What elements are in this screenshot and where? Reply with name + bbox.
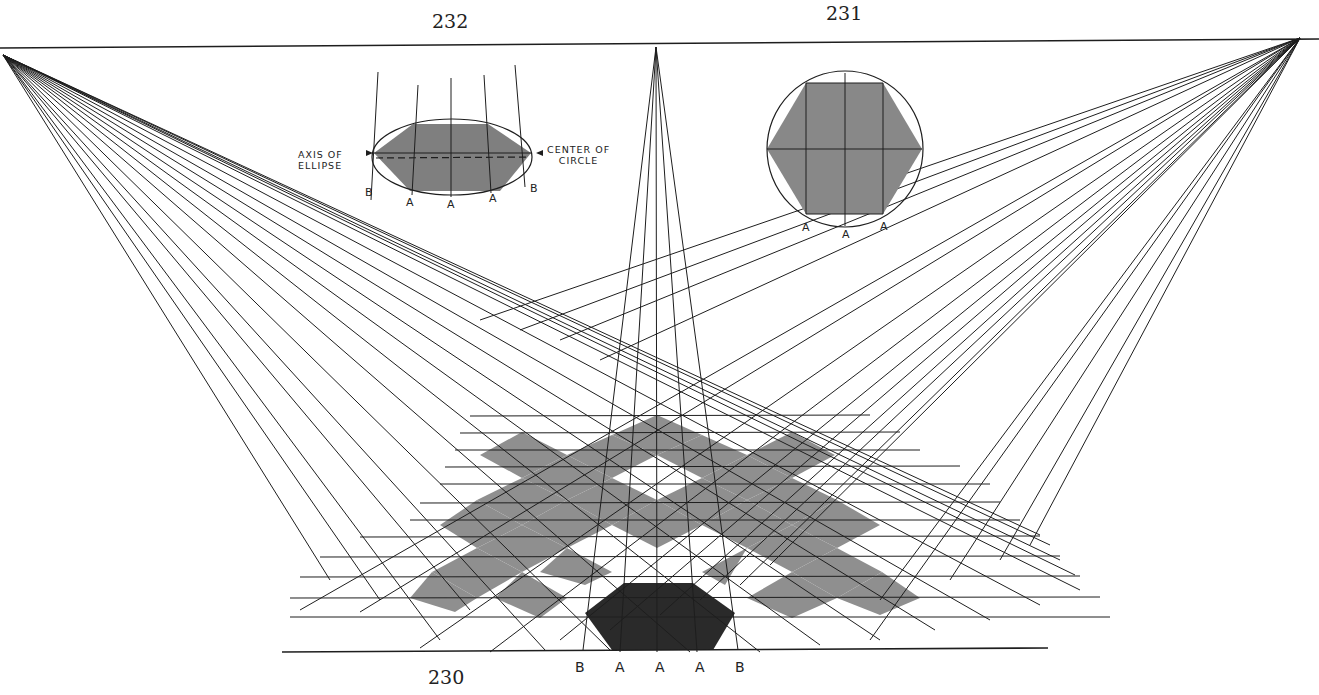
horizon-line [0,39,1319,48]
ellipse-vertical-line [371,72,378,200]
line-to-right-vanishing-point [870,38,1300,640]
figure-number-232: 232 [432,10,468,32]
perspective-drawing: BAAABBAAABAAA [0,0,1319,695]
line-to-left-vanishing-point [3,55,610,650]
grid-horizontal-line [470,415,870,416]
line-to-center-vanishing-point [656,47,738,650]
figure-number-231: 231 [826,2,862,24]
callout-center-of-circle: CENTER OF CIRCLE [547,144,610,166]
line-to-center-vanishing-point [620,47,656,652]
callout-center-line2: CIRCLE [547,155,610,166]
callout-axis-line2: ELLIPSE [298,160,343,171]
line-to-left-vanishing-point [3,55,380,600]
line-to-right-vanishing-point [600,38,1300,360]
circle-point-label: A [880,220,888,233]
ground-label: A [615,659,625,675]
circle-point-label: A [802,221,810,234]
callout-axis-line1: AXIS OF [298,149,343,160]
perspective-illustration: BAAABBAAABAAA 232 231 230 AXIS OF ELLIPS… [0,0,1319,695]
callout-center-line1: CENTER OF [547,144,610,155]
center-arrow-icon [536,150,543,156]
ellipse-point-label: B [365,186,373,199]
line-to-right-vanishing-point [560,38,1300,640]
line-to-right-vanishing-point [1000,38,1300,560]
ground-label: A [655,659,665,675]
circle-point-label: A [842,228,850,241]
ellipse-point-label: A [447,198,455,211]
figure-number-230: 230 [428,666,464,688]
line-to-right-vanishing-point [880,38,1300,600]
ellipse-point-label: A [489,192,497,205]
line-to-center-vanishing-point [656,47,697,652]
ellipse-hexagon [374,124,531,191]
line-to-right-vanishing-point [520,38,1300,330]
line-to-left-vanishing-point [3,55,330,580]
callout-axis-of-ellipse: AXIS OF ELLIPSE [298,149,343,171]
ground-label: A [695,659,705,675]
line-to-right-vanishing-point [610,38,1300,630]
line-to-right-vanishing-point [950,38,1300,580]
ellipse-point-label: B [530,182,538,195]
ground-label: B [575,659,585,675]
line-to-right-vanishing-point [1030,38,1300,545]
ground-label: B [735,659,745,675]
ellipse-point-label: A [406,196,414,209]
